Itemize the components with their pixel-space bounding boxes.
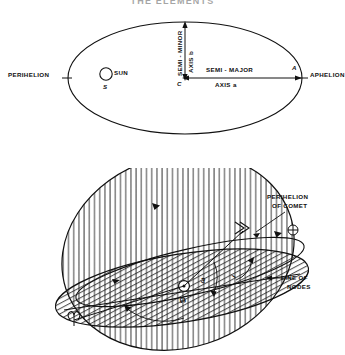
semi-major-axis-label-1: SEMI - MAJOR (206, 66, 253, 74)
earth-symbol-group (288, 225, 298, 235)
semi-minor-axis-label-2: AXIS b (187, 51, 195, 73)
line-of-nodes-label-1: LINE OF (281, 274, 308, 282)
line-of-nodes-label-2: NODES (287, 283, 311, 291)
aphelion-point-label: A (292, 64, 297, 72)
perihelion-of-comet-label-1: PERIHELION (267, 193, 308, 201)
sun-label: SUN (114, 69, 128, 77)
perihelion-of-comet-label-2: OF COMET (272, 202, 307, 210)
ascending-node-symbol: ☊ (179, 297, 187, 307)
argument-of-perihelion-symbol: ω (198, 277, 208, 285)
semi-minor-axis-label-1: SEMI - MINOR (176, 31, 184, 76)
ellipse-diagram-svg (0, 0, 345, 170)
sun-point-label: S (103, 83, 107, 91)
semi-major-axis-label-2: AXIS a (215, 81, 237, 89)
center-point-label: C (177, 80, 182, 88)
aphelion-label: APHELION (310, 71, 345, 79)
perihelion-label: PERIHELION (8, 71, 49, 79)
sun-circle (100, 68, 112, 80)
astronomy-figure: THE ELEMENTS PERIHELION APHELION SUN S C… (0, 0, 345, 355)
